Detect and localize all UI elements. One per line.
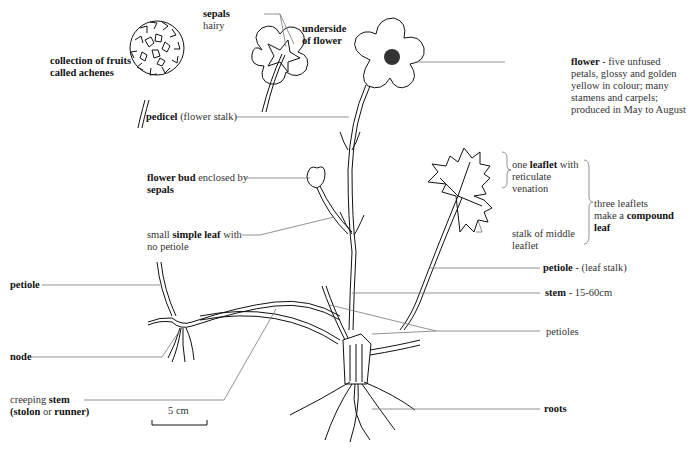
creeping-bold: stem: [49, 394, 70, 405]
scale-bar-label: 5 cm: [168, 405, 189, 417]
roots-bold: roots: [544, 403, 567, 414]
label-leaflet: one leaflet with reticulate venation: [512, 159, 579, 195]
label-stalk-middle-leaflet: stalk of middle leaflet: [512, 228, 575, 252]
sepals-rest: hairy: [203, 20, 225, 31]
simple-leaf-line2: no petiole: [147, 241, 189, 252]
label-flower-bud: flower bud enclosed by sepals: [147, 172, 248, 196]
stem-rest: - 15-60cm: [566, 287, 612, 298]
label-underside: underside of flower: [302, 23, 346, 47]
scale-text: 5 cm: [168, 405, 189, 416]
label-petiole-leaf-stalk: petiole - (leaf stalk): [543, 262, 627, 274]
achenes-bold-1: collection of fruits: [50, 55, 131, 66]
creeping-paren-close: ): [86, 406, 90, 417]
open-flower-illustration: [355, 18, 425, 88]
label-stem: stem - 15-60cm: [545, 287, 612, 299]
creeping-pre: creeping: [10, 394, 49, 405]
stalk-line2: leaflet: [512, 240, 538, 251]
leaflet-line2: reticulate: [512, 171, 551, 182]
achenes-bold-2: called achenes: [50, 67, 114, 78]
flower-rest: - five unfused: [600, 56, 661, 67]
compound-leaf-illustration: [400, 148, 492, 330]
label-creeping-stem: creeping stem (stolon or runner): [10, 394, 89, 418]
underside-line2: of flower: [302, 35, 342, 46]
plant-base-illustration: [200, 286, 420, 442]
node-bold: node: [10, 351, 32, 362]
flower-underside-illustration: [252, 26, 308, 112]
label-compound-leaf: three leaflets make a compound leaf: [594, 198, 674, 234]
creeping-or: or: [40, 406, 54, 417]
stolon-illustration: [148, 262, 340, 362]
petiole-right-bold: petiole: [543, 262, 573, 273]
leaflet-line3: venation: [512, 183, 548, 194]
petiole-left-bold: petiole: [10, 279, 40, 290]
underside-line1: underside: [302, 23, 346, 34]
pedicel-rest: (flower stalk): [178, 111, 237, 122]
label-achenes: collection of fruits called achenes: [50, 55, 131, 79]
petioles-text: petioles: [546, 326, 579, 337]
petiole-right-rest: - (leaf stalk): [573, 262, 627, 273]
bud-bold: flower bud: [147, 172, 196, 183]
flower-line-4: produced in May to August: [571, 104, 686, 115]
stem-bold: stem: [545, 287, 566, 298]
flower-bold: flower: [571, 56, 600, 67]
flower-line-2: yellow in colour; many: [571, 80, 669, 91]
simple-leaf-pre: small: [147, 229, 172, 240]
leaflet-rest: with: [557, 159, 578, 170]
compound-line3: leaf: [594, 222, 610, 233]
bud-rest: enclosed by: [196, 172, 249, 183]
creeping-stolon: stolon: [14, 406, 41, 417]
leaflet-pre: one: [512, 159, 530, 170]
label-pedicel: pedicel (flower stalk): [146, 111, 237, 123]
label-petioles: petioles: [546, 326, 579, 338]
stalk-line1: stalk of middle: [512, 228, 575, 239]
flower-line-1: petals, glossy and golden: [571, 68, 677, 79]
simple-leaf-rest: with: [221, 229, 242, 240]
compound-line1: three leaflets: [594, 198, 648, 209]
sepals-bold: sepals: [203, 8, 230, 19]
label-sepals: sepals hairy: [203, 8, 230, 32]
label-node: node: [10, 351, 32, 363]
compound-bold: compound: [627, 210, 674, 221]
creeping-runner: runner: [54, 406, 86, 417]
label-flower: flower - five unfused petals, glossy and…: [571, 56, 686, 116]
pedicel-bold: pedicel: [146, 111, 178, 122]
label-simple-leaf: small simple leaf with no petiole: [147, 229, 242, 253]
compound-pre: make a: [594, 210, 627, 221]
label-roots: roots: [544, 403, 567, 415]
bud-bold-2: sepals: [147, 184, 174, 195]
label-petiole-left: petiole: [10, 279, 40, 291]
flower-line-3: stamens and carpels;: [571, 92, 658, 103]
leaflet-bold: leaflet: [530, 159, 557, 170]
simple-leaf-bold: simple leaf: [172, 229, 220, 240]
